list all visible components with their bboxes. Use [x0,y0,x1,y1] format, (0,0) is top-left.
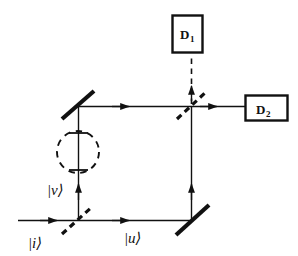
detector-d2[interactable]: D 2 [246,96,288,121]
state-label-v: |v⟩ [47,182,64,198]
state-label-u: |u⟩ [124,230,141,246]
detector-d1-subscript: 1 [190,34,195,44]
interferometer-diagram: D 1 D 2 |v⟩ |i⟩ |u⟩ [0,0,298,256]
detector-d2-subscript: 2 [266,109,271,119]
diagram-canvas: D 1 D 2 |v⟩ |i⟩ |u⟩ [0,0,298,256]
detector-d1[interactable]: D 1 [173,16,203,53]
detector-d2-label: D [256,102,265,117]
detector-d1-label: D [180,27,189,42]
state-label-i: |i⟩ [28,235,42,251]
